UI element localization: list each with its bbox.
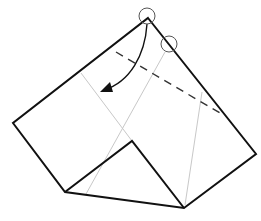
crease-line-3 [185,92,202,205]
fold-arrow-curve [104,24,147,90]
origami-fold-diagram [0,0,261,221]
fold-arrow [100,24,147,92]
inner-flap-outline [65,141,184,208]
crease-line-1 [81,73,132,141]
valley-fold-dashed-line [116,52,220,113]
paper-outline [13,18,256,208]
marker-circle-apex [139,8,155,24]
crease-lines [81,52,202,205]
arrowhead-icon [100,82,113,92]
